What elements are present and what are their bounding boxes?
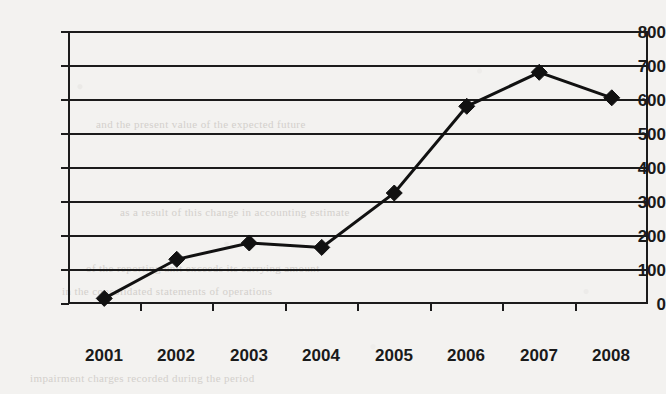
x-tick-label-2005: 2005 [364,347,424,364]
x-tick-mark-6 [502,304,504,311]
x-tick-label-2007: 2007 [509,347,569,364]
x-tick-label-2004: 2004 [291,347,351,364]
x-tick-label-2002: 2002 [146,347,206,364]
x-tick-mark-7 [575,304,577,311]
gridline-700 [70,65,646,67]
x-tick-mark-2 [212,304,214,311]
ghost-text-line-5: impairment charges recorded during the p… [30,372,255,384]
gridline-600 [70,99,646,101]
x-tick-mark-4 [357,304,359,311]
plot-area [68,31,648,304]
x-tick-mark-1 [140,304,142,311]
x-tick-label-2003: 2003 [219,347,279,364]
x-tick-label-2001: 2001 [74,347,134,364]
x-tick-label-2008: 2008 [581,347,641,364]
gridline-200 [70,235,646,237]
gridline-400 [70,167,646,169]
gridline-100 [70,269,646,271]
x-tick-mark-5 [430,304,432,311]
chart-container: and the present value of the expected fu… [0,0,666,394]
gridline-500 [70,133,646,135]
x-tick-label-2006: 2006 [436,347,496,364]
x-tick-mark-3 [285,304,287,311]
gridline-300 [70,201,646,203]
